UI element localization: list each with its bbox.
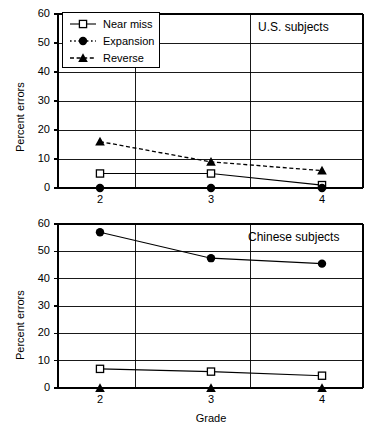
x-axis-label: Grade [151,412,271,424]
series-line [100,142,322,171]
panel-title-chinese: Chinese subjects [248,230,339,244]
legend-label: Reverse [103,50,144,66]
y-axis-tick-label: 60 [24,7,50,19]
marker-filled-circle [96,228,104,236]
marker-open-square [79,20,86,27]
legend-label: Expansion [103,33,154,49]
y-axis-tick-label: 10 [24,152,50,164]
marker-filled-circle [79,37,87,45]
marker-open-square [207,368,214,375]
y-axis-tick-label: 40 [24,65,50,77]
series-reverse [95,137,327,175]
x-axis-tick-label: 4 [310,393,334,405]
marker-filled-circle [207,184,215,192]
y-axis-tick-label: 30 [24,299,50,311]
x-axis-tick-label: 3 [199,393,223,405]
marker-open-square [96,170,103,177]
marker-filled-circle [96,184,104,192]
legend-marker-open-square [79,20,86,27]
x-axis-tick-label: 2 [88,393,112,405]
chart-panel-chinese: Percent errors Chinese subjects Grade 01… [0,210,377,438]
marker-filled-circle [318,259,326,267]
marker-open-square [96,365,103,372]
marker-open-square [318,372,325,379]
y-axis-tick-label: 0 [24,181,50,193]
y-axis-tick-label: 30 [24,94,50,106]
y-axis-tick-label: 10 [24,354,50,366]
y-axis-tick-label: 20 [24,123,50,135]
x-axis-tick-label: 2 [88,193,112,205]
y-axis-label-us: Percent errors [14,82,26,152]
marker-filled-triangle [95,137,105,146]
y-axis-tick-label: 50 [24,244,50,256]
chart-panel-us: Percent errors U.S. subjects Near missEx… [0,0,377,210]
figure: Percent errors U.S. subjects Near missEx… [0,0,377,438]
y-axis-tick-label: 40 [24,272,50,284]
y-axis-tick-label: 0 [24,381,50,393]
y-axis-tick-label: 60 [24,217,50,229]
legend-label: Near miss [103,16,153,32]
marker-filled-circle [318,184,326,192]
legend: Near missExpansionReverse [62,12,160,68]
x-axis-tick-label: 4 [310,193,334,205]
y-axis-tick-label: 50 [24,36,50,48]
legend-marker-filled-circle [79,37,87,45]
marker-open-square [207,170,214,177]
x-axis-tick-label: 3 [199,193,223,205]
panel-title-us: U.S. subjects [258,20,329,34]
y-axis-tick-label: 20 [24,326,50,338]
marker-filled-circle [207,254,215,262]
series-near-miss [96,365,325,379]
